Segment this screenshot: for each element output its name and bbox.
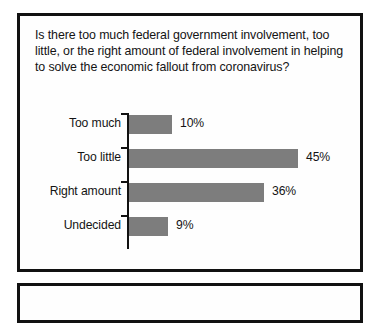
axis-tick xyxy=(121,181,128,183)
category-label: Too little xyxy=(20,150,121,164)
chart-row: Right amount 36% xyxy=(20,172,360,206)
category-label: Right amount xyxy=(20,184,121,198)
next-poll-panel xyxy=(17,283,363,323)
chart-row: Too much 10% xyxy=(20,104,360,138)
bar-chart: Too much 10% Too little 45% Right amount… xyxy=(20,104,360,264)
chart-row: Too little 45% xyxy=(20,138,360,172)
bar-undecided xyxy=(129,217,168,236)
axis-tick xyxy=(121,113,128,115)
category-label: Undecided xyxy=(20,218,121,232)
axis-tick xyxy=(121,147,128,149)
bar-value-label: 36% xyxy=(272,184,296,198)
bar-too-much xyxy=(129,115,172,134)
bar-too-little xyxy=(129,149,298,168)
poll-result-panel: Is there too much federal government inv… xyxy=(17,13,363,272)
poll-question: Is there too much federal government inv… xyxy=(35,27,345,76)
chart-row: Undecided 9% xyxy=(20,206,360,240)
bar-value-label: 10% xyxy=(180,116,204,130)
bar-right-amount xyxy=(129,183,264,202)
axis-tick xyxy=(121,215,128,217)
category-label: Too much xyxy=(20,116,121,130)
bar-value-label: 45% xyxy=(306,150,330,164)
bar-value-label: 9% xyxy=(176,218,193,232)
